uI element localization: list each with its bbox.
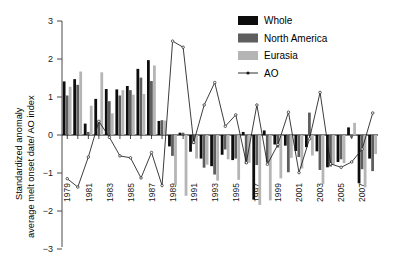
bar-eurasia-2005: [343, 135, 346, 163]
bar-whole-1992: [200, 135, 203, 159]
bar-whole-1986: [136, 69, 139, 135]
bar-whole-1984: [115, 89, 118, 135]
legend-swatch-whole: [238, 16, 258, 25]
bar-whole-1988: [158, 121, 161, 135]
ao-data-point-1986: [140, 177, 143, 180]
bar-whole-1983: [105, 89, 108, 135]
x-tick-label: 1979: [62, 183, 72, 202]
y-axis-title-line1: Standardized anomaly: [14, 107, 24, 200]
bar-north-america-1985: [129, 90, 132, 135]
ao-data-point-2007: [361, 148, 364, 151]
bar-eurasia-1992: [206, 135, 209, 165]
bar-whole-2007: [358, 135, 361, 183]
ao-data-point-2006: [350, 161, 353, 164]
ao-data-point-1995: [235, 114, 238, 117]
ao-data-point-1983: [108, 136, 111, 139]
bar-north-america-1993: [213, 135, 216, 175]
bar-whole-2006: [347, 127, 350, 135]
bar-north-america-1979: [66, 95, 69, 135]
x-tick-label: 1995: [231, 183, 241, 202]
bar-whole-1999: [273, 135, 276, 145]
bar-eurasia-2004: [332, 135, 335, 165]
chart-figure: 3210−1−2−3 19791981198319851987198919911…: [0, 0, 394, 268]
y-axis-ticks: 3210−1−2−3: [43, 16, 62, 254]
ao-data-point-2002: [308, 138, 311, 141]
x-tick-label: 1989: [168, 183, 178, 202]
ao-data-point-1994: [224, 125, 227, 128]
x-tick-label: 1991: [189, 183, 199, 202]
bar-eurasia-2008: [374, 135, 377, 154]
bar-eurasia-1999: [279, 135, 282, 178]
bar-whole-1995: [231, 135, 234, 160]
legend-marker-ao: [246, 71, 249, 74]
bar-eurasia-1995: [237, 135, 240, 180]
x-tick-label: 1999: [273, 183, 283, 202]
bar-eurasia-1993: [216, 135, 219, 181]
bar-north-america-1997: [255, 135, 258, 165]
y-tick-label: 1: [48, 92, 53, 102]
standardized-anomaly-chart: 3210−1−2−3 19791981198319851987198919911…: [0, 0, 394, 268]
bar-north-america-1986: [139, 78, 142, 135]
bar-eurasia-2006: [353, 123, 356, 135]
ao-data-point-1980: [77, 186, 80, 189]
bar-north-america-2008: [371, 135, 374, 171]
y-tick-label: −2: [43, 206, 53, 216]
ao-data-point-2008: [371, 112, 374, 115]
ao-data-point-1987: [150, 151, 153, 154]
ao-data-point-1984: [119, 155, 122, 158]
legend-label-ao: AO: [264, 68, 279, 79]
bar-eurasia-2003: [322, 135, 325, 184]
bar-north-america-2000: [287, 135, 290, 172]
bar-north-america-1980: [76, 85, 79, 135]
ao-data-point-1990: [182, 46, 185, 49]
bar-whole-1990: [179, 133, 182, 135]
bar-whole-1998: [263, 130, 266, 135]
bar-eurasia-1991: [195, 135, 198, 159]
ao-data-point-1997: [256, 104, 259, 107]
ao-data-point-1991: [192, 141, 195, 144]
bar-whole-2005: [337, 135, 340, 162]
bar-north-america-1992: [203, 135, 206, 168]
ao-data-point-2005: [340, 166, 343, 169]
bar-eurasia-1998: [269, 135, 272, 200]
bar-whole-2000: [284, 135, 287, 146]
bar-north-america-2003: [319, 135, 322, 170]
bar-whole-2008: [368, 135, 371, 159]
ao-data-point-1996: [245, 161, 248, 164]
bar-whole-1979: [63, 81, 66, 135]
x-tick-label: 2005: [336, 183, 346, 202]
ao-data-point-2000: [287, 111, 290, 114]
bar-whole-1997: [252, 135, 255, 200]
legend-swatch-eurasia: [238, 51, 258, 60]
bar-whole-2003: [316, 135, 319, 151]
bar-north-america-2001: [297, 135, 300, 157]
x-tick-label: 1993: [210, 183, 220, 202]
bar-eurasia-1980: [79, 72, 82, 135]
ao-data-point-1989: [171, 40, 174, 43]
bar-eurasia-2000: [290, 135, 293, 158]
legend-label-north-america: North America: [264, 33, 328, 44]
bar-eurasia-1987: [153, 65, 156, 135]
bar-north-america-1983: [108, 101, 111, 135]
bar-whole-1987: [147, 60, 150, 135]
legend-label-whole: Whole: [264, 15, 293, 26]
bar-eurasia-1984: [121, 90, 124, 135]
bar-whole-1994: [221, 135, 224, 155]
bar-north-america-1987: [150, 81, 153, 135]
chart-legend: WholeNorth AmericaEurasiaAO: [238, 15, 328, 79]
bar-eurasia-1989: [174, 135, 177, 185]
x-tick-label: 1981: [84, 183, 94, 202]
ao-data-point-1999: [277, 143, 280, 146]
legend-swatch-north-america: [238, 34, 258, 43]
x-tick-label: 1985: [126, 183, 136, 202]
bar-whole-1985: [126, 86, 129, 135]
ao-data-point-1979: [66, 177, 69, 180]
y-tick-label: −3: [43, 244, 53, 254]
y-tick-label: −1: [43, 168, 53, 178]
ao-data-point-1981: [87, 156, 90, 159]
y-tick-label: 2: [48, 54, 53, 64]
bar-whole-1980: [73, 79, 76, 135]
bar-whole-1993: [210, 135, 213, 166]
bar-eurasia-1981: [90, 106, 93, 135]
bar-whole-1991: [189, 135, 192, 152]
